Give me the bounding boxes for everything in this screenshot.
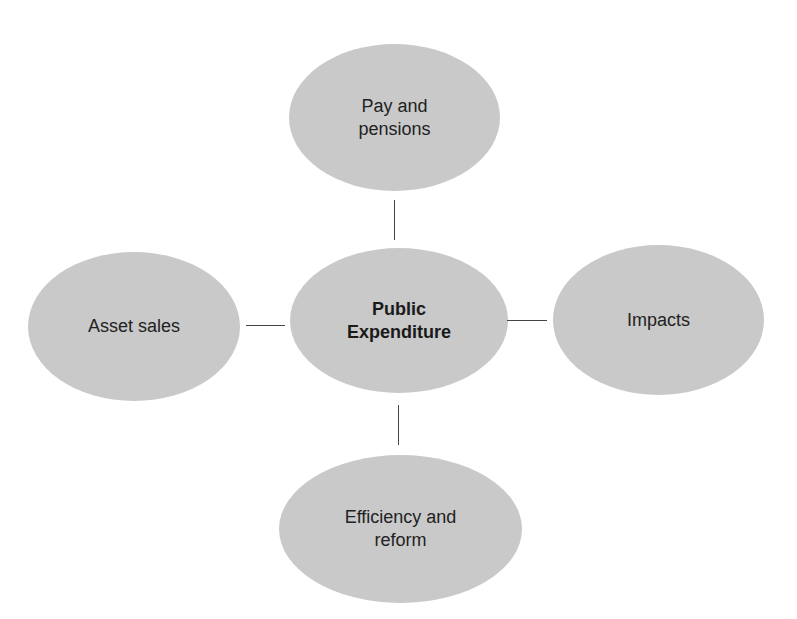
- connector-right: [507, 320, 547, 321]
- label-line-2: reform: [345, 529, 457, 552]
- node-pay-and-pensions: Pay and pensions: [289, 44, 500, 191]
- label-line-1: Efficiency and: [345, 506, 457, 529]
- connector-left: [246, 325, 285, 326]
- connector-bottom: [398, 405, 399, 445]
- node-asset-sales-label: Asset sales: [68, 315, 200, 338]
- node-pay-and-pensions-label: Pay and pensions: [338, 95, 450, 141]
- node-efficiency-and-reform: Efficiency and reform: [279, 455, 522, 603]
- node-public-expenditure: Public Expenditure: [290, 248, 508, 393]
- node-public-expenditure-label: Public Expenditure: [327, 298, 471, 344]
- connector-top: [394, 200, 395, 240]
- label-line-2: Expenditure: [347, 321, 451, 344]
- label-line-1: Pay and: [358, 95, 430, 118]
- node-efficiency-and-reform-label: Efficiency and reform: [325, 506, 477, 552]
- node-impacts: Impacts: [553, 245, 764, 395]
- node-asset-sales: Asset sales: [28, 252, 240, 401]
- label-line-1: Public: [347, 298, 451, 321]
- node-impacts-label: Impacts: [607, 309, 710, 332]
- label-line-2: pensions: [358, 118, 430, 141]
